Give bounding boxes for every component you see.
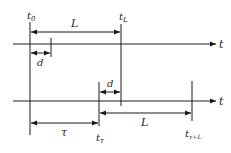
tau-label: τ (61, 126, 68, 139)
tau-interval: τ (31, 123, 98, 139)
top-L-label: L (70, 17, 78, 30)
bottom-L-interval: L (100, 113, 191, 129)
bottom-axis-label: t (219, 95, 224, 108)
tL-marker: tL (119, 11, 128, 106)
ttauL-marker: tτ+L (185, 81, 201, 140)
bottom-L-label: L (140, 116, 148, 129)
top-L-interval: L (31, 17, 120, 32)
timing-diagram: t t t0 tL L d tτ d tτ+L (0, 0, 231, 153)
top-d-label: d (37, 57, 43, 68)
t0-marker: t0 (27, 10, 36, 135)
bottom-d-interval: d (100, 78, 120, 92)
tL-label: tL (119, 11, 128, 24)
ttauL-label: tτ+L (185, 128, 201, 140)
ttau-label: tτ (96, 132, 104, 145)
top-axis-label: t (219, 38, 224, 51)
t0-label: t0 (27, 10, 36, 23)
bottom-d-label: d (107, 78, 113, 89)
top-time-axis: t (13, 38, 224, 51)
top-d-interval: d (31, 38, 51, 68)
